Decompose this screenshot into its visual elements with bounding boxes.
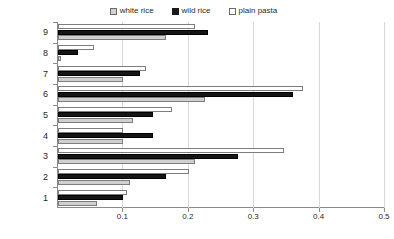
bar-plain-pasta xyxy=(58,190,127,195)
bar-white-rice xyxy=(58,97,205,102)
legend-swatch-wild-rice xyxy=(172,8,179,15)
bar-white-rice xyxy=(58,118,133,123)
bar-white-rice xyxy=(58,159,195,164)
y-tickmark xyxy=(53,22,57,23)
bar-wild-rice xyxy=(58,92,293,97)
y-tickmark xyxy=(53,105,57,106)
plot-area xyxy=(57,22,384,208)
legend-label-plain-pasta: plain pasta xyxy=(239,6,278,16)
bar-wild-rice xyxy=(58,71,140,76)
y-tick-label: 8 xyxy=(28,48,48,58)
legend-label-white-rice: white rice xyxy=(120,6,154,16)
y-tickmark xyxy=(53,146,57,147)
bar-white-rice xyxy=(58,180,130,185)
chart-legend: white rice wild rice plain pasta xyxy=(0,4,387,18)
x-tick-label: 0.3 xyxy=(238,212,268,221)
bar-wild-rice xyxy=(58,133,153,138)
legend-item-wild-rice: wild rice xyxy=(172,6,211,16)
bar-wild-rice xyxy=(58,174,166,179)
x-axis-line xyxy=(57,207,384,208)
bar-white-rice xyxy=(58,139,123,144)
y-tick-label: 6 xyxy=(28,89,48,99)
bar-plain-pasta xyxy=(58,66,146,71)
bar-plain-pasta xyxy=(58,86,303,91)
bar-plain-pasta xyxy=(58,107,172,112)
legend-item-white-rice: white rice xyxy=(110,6,154,16)
bar-group xyxy=(58,66,384,82)
y-tick-label: 3 xyxy=(28,151,48,161)
x-tick-label: 0.5 xyxy=(369,212,394,221)
x-tick-label: 0.1 xyxy=(107,212,137,221)
y-tickmark xyxy=(53,63,57,64)
bar-plain-pasta xyxy=(58,24,195,29)
bar-group xyxy=(58,24,384,40)
y-tick-label: 7 xyxy=(28,69,48,79)
bar-group xyxy=(58,190,384,206)
y-tickmark xyxy=(53,125,57,126)
bar-white-rice xyxy=(58,56,61,61)
bar-plain-pasta xyxy=(58,148,284,153)
gridline xyxy=(384,22,385,208)
bar-group xyxy=(58,148,384,164)
bar-group xyxy=(58,107,384,123)
legend-swatch-plain-pasta xyxy=(229,8,236,15)
bar-group xyxy=(58,128,384,144)
y-tickmark xyxy=(53,43,57,44)
y-tickmark xyxy=(53,84,57,85)
legend-item-plain-pasta: plain pasta xyxy=(229,6,278,16)
bar-plain-pasta xyxy=(58,169,189,174)
bar-plain-pasta xyxy=(58,45,94,50)
legend-label-wild-rice: wild rice xyxy=(182,6,211,16)
bar-white-rice xyxy=(58,35,166,40)
legend-swatch-white-rice xyxy=(110,8,117,15)
y-tick-label: 1 xyxy=(28,193,48,203)
bar-group xyxy=(58,86,384,102)
y-tickmark xyxy=(53,187,57,188)
y-tick-label: 2 xyxy=(28,172,48,182)
bar-wild-rice xyxy=(58,112,153,117)
y-tick-label: 4 xyxy=(28,131,48,141)
bar-white-rice xyxy=(58,77,123,82)
bar-wild-rice xyxy=(58,50,78,55)
bar-group xyxy=(58,169,384,185)
bar-group xyxy=(58,45,384,61)
y-tickmark xyxy=(53,167,57,168)
x-tick-label: 0.4 xyxy=(304,212,334,221)
y-tick-label: 5 xyxy=(28,110,48,120)
bar-wild-rice xyxy=(58,195,123,200)
bar-plain-pasta xyxy=(58,128,123,133)
x-tick-label: 0.2 xyxy=(173,212,203,221)
bar-wild-rice xyxy=(58,30,208,35)
bar-white-rice xyxy=(58,201,97,206)
bar-wild-rice xyxy=(58,154,238,159)
y-tick-label: 9 xyxy=(28,27,48,37)
